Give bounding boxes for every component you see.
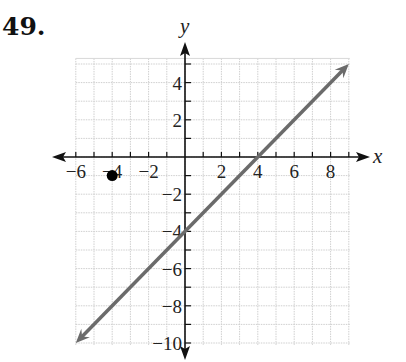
x-tick-label: 2: [217, 161, 227, 182]
plotted-point: [107, 170, 118, 181]
x-tick-label: 4: [253, 161, 263, 182]
x-tick-label: −6: [66, 161, 86, 182]
x-tick-label: −2: [138, 161, 158, 182]
point-dot: [107, 170, 118, 181]
line-y-equals-x-minus-4: [81, 70, 343, 338]
plotted-line: [76, 64, 349, 343]
coordinate-plane: −6−4−2246842−2−4−6−8−10xy: [0, 0, 406, 362]
y-tick-label: 2: [173, 110, 183, 131]
y-axis-label: y: [178, 14, 190, 38]
y-tick-label: −6: [162, 259, 182, 280]
y-tick-label: 4: [173, 73, 183, 94]
x-tick-label: 6: [289, 161, 299, 182]
y-tick-label: −8: [162, 296, 182, 317]
x-tick-label: 8: [326, 161, 336, 182]
y-tick-label: −10: [152, 333, 182, 354]
x-axis-label: x: [372, 144, 383, 168]
y-tick-label: −2: [162, 184, 182, 205]
